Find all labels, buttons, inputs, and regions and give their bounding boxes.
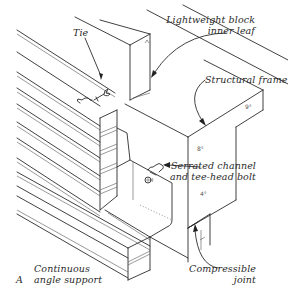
svg-text:9°: 9° <box>245 103 252 110</box>
label-lightweight-block: Lightweight block inner leaf <box>166 14 255 36</box>
label-serrated-channel-line2: and tee-head bolt <box>170 171 256 182</box>
label-compressible-joint: Compressible joint <box>189 263 256 285</box>
brick-outer-leaf <box>17 30 130 216</box>
label-serrated-channel: Serrated channel and tee-head bolt <box>170 160 256 182</box>
label-continuous-line1: Continuous <box>34 263 102 274</box>
leader-lines <box>85 33 226 268</box>
label-compressible-joint-line1: Compressible <box>189 263 256 274</box>
cladding-support-detail-diagram: 9° 8° 4° <box>0 0 288 301</box>
label-serrated-channel-line1: Serrated channel <box>170 160 256 171</box>
svg-text:4°: 4° <box>200 190 207 197</box>
panel-letter: A <box>16 274 23 285</box>
label-continuous-angle-support: Continuous angle support <box>34 263 102 285</box>
structural-frame: 9° 8° 4° <box>125 5 288 262</box>
label-compressible-joint-line2: joint <box>189 274 256 285</box>
label-structural-frame: Structural frame <box>205 74 287 85</box>
label-lightweight-block-line1: Lightweight block <box>166 14 255 25</box>
svg-text:8°: 8° <box>197 145 204 152</box>
label-continuous-line2: angle support <box>34 274 102 285</box>
wall-tie <box>77 89 110 103</box>
label-tie: Tie <box>73 27 88 38</box>
label-lightweight-block-line2: inner leaf <box>166 25 255 36</box>
